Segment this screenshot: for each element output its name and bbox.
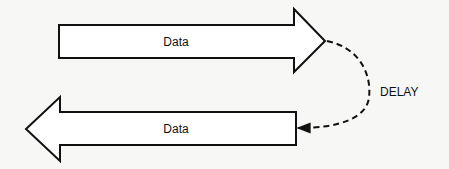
bottom-data-arrow: Data [26,97,296,161]
delay-diagram: Data Data DELAY [0,0,449,169]
top-arrow-label: Data [163,35,189,49]
bottom-arrow-label: Data [163,122,189,136]
delay-label: DELAY [380,85,418,99]
top-data-arrow: Data [59,9,325,72]
